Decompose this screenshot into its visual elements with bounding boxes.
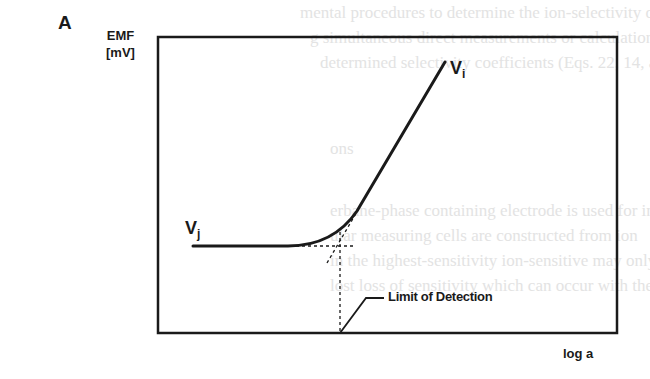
curve-label-vj: Vj <box>185 218 200 241</box>
vi-subscript: i <box>462 67 465 81</box>
detection-limit-leader <box>340 298 384 333</box>
vj-subscript: j <box>197 227 200 241</box>
y-axis-label-unit: [mV] <box>106 44 135 61</box>
x-axis-label: log a <box>563 346 593 361</box>
limit-of-detection-label: Limit of Detection <box>388 289 492 304</box>
curve-label-vi: Vi <box>450 58 465 81</box>
y-axis-label: EMF [mV] <box>106 27 135 61</box>
vj-main: V <box>185 218 197 238</box>
calibration-curve <box>193 62 445 246</box>
extrapolation-lines <box>290 210 358 333</box>
vi-main: V <box>450 58 462 78</box>
y-axis-label-quantity: EMF <box>106 27 135 44</box>
calibration-plot <box>0 0 650 379</box>
panel-label: A <box>58 12 72 34</box>
